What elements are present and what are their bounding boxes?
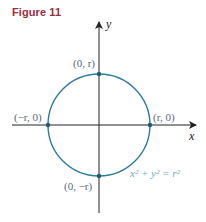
point-label-right: (r, 0)	[153, 111, 175, 124]
point-right	[148, 123, 152, 127]
point-label-left: (−r, 0)	[14, 111, 42, 124]
point-bottom	[97, 174, 101, 178]
point-label-bottom: (0, −r)	[64, 180, 93, 193]
x-axis-label: x	[188, 129, 195, 143]
circle-diagram: y x (0, r) (−r, 0) (r, 0) (0, −r) x² + y…	[0, 0, 206, 222]
y-axis-label: y	[105, 17, 112, 31]
point-top	[97, 72, 101, 76]
circle-equation: x² + y² = r²	[129, 167, 180, 179]
point-label-top: (0, r)	[73, 57, 95, 70]
point-left	[46, 123, 50, 127]
